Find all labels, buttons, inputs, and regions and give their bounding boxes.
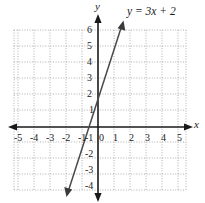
coordinate-plane-svg	[0, 0, 205, 203]
y-tick-label-3: 3	[87, 73, 92, 83]
y-tick-label-2: 2	[87, 89, 92, 99]
x-tick-label-1: 1	[113, 133, 118, 143]
x-tick-label-4: 4	[161, 133, 166, 143]
y-tick-label-1: 1	[89, 105, 94, 115]
x-tick-label--4: -4	[30, 133, 38, 143]
x-tick-label-0: 0	[99, 133, 104, 143]
grid-lines	[14, 30, 186, 190]
x-axis-arrow-left	[8, 123, 17, 130]
y-axis-arrow-up	[94, 14, 101, 23]
x-tick-label-5: 5	[177, 133, 182, 143]
x-tick-label--5: -5	[14, 133, 22, 143]
y-tick-label-5: 5	[87, 41, 92, 51]
y-tick-label--4: -4	[85, 181, 93, 191]
line-arrow-upper	[118, 21, 126, 31]
x-axis-arrow-right	[184, 123, 193, 130]
y-axis-arrow-down	[94, 193, 101, 202]
x-tick-label-2: 2	[129, 133, 134, 143]
y-tick-label--3: -3	[85, 165, 93, 175]
y-tick-label-4: 4	[87, 57, 92, 67]
x-tick-label--3: -3	[46, 133, 54, 143]
axes	[12, 17, 190, 200]
line-arrow-lower	[64, 187, 72, 197]
y-tick-label--2: -2	[85, 149, 93, 159]
x-tick-label-3: 3	[145, 133, 150, 143]
graph-figure: -5 -4 -3 -2 -1 0 1 2 3 4 5 6 5 4 3 2 1 -…	[0, 0, 205, 203]
equation-label: y = 3x + 2	[127, 6, 176, 18]
y-axis-label: y	[95, 1, 100, 12]
x-axis-label: x	[194, 119, 199, 130]
y-tick-label--1: -1	[85, 133, 93, 143]
x-tick-label--2: -2	[62, 133, 70, 143]
y-tick-label-6: 6	[87, 25, 92, 35]
